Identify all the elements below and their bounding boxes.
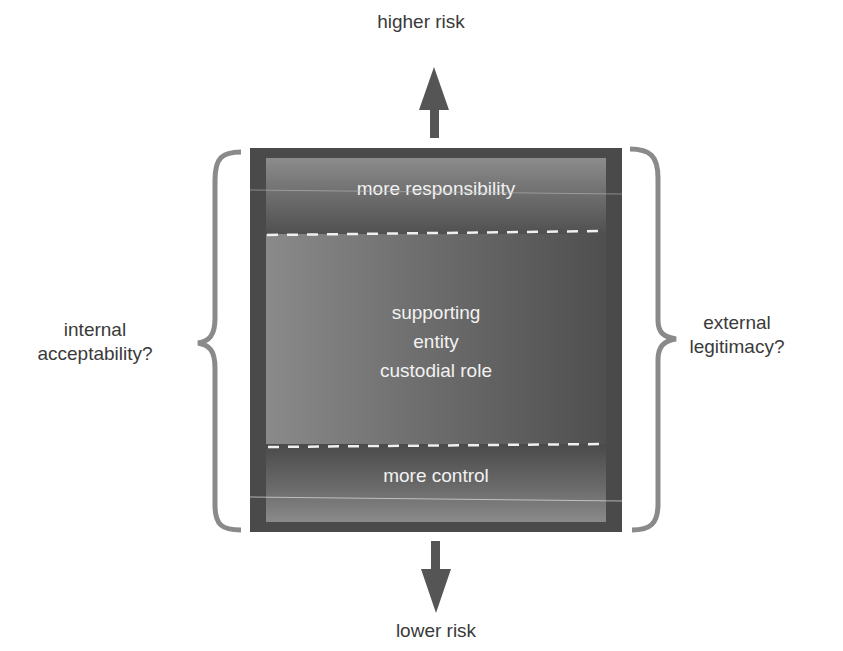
external-legitimacy-label: external legitimacy? xyxy=(652,311,822,359)
control-band: more control xyxy=(266,444,606,522)
left-brace-icon xyxy=(198,152,241,530)
down-arrow-icon xyxy=(421,541,451,613)
up-arrow-icon xyxy=(419,67,449,138)
control-text: more control xyxy=(266,465,606,487)
middle-line: supporting xyxy=(266,298,606,327)
lower-risk-label: lower risk xyxy=(336,619,536,643)
label-line: acceptability? xyxy=(0,342,190,366)
label-line: legitimacy? xyxy=(652,335,822,359)
responsibility-band: more responsibility xyxy=(266,158,606,234)
label-line: internal xyxy=(0,318,190,342)
entity-box: more responsibility supporting entity cu… xyxy=(266,158,606,522)
internal-acceptability-label: internal acceptability? xyxy=(0,318,190,366)
supporting-entity-text: supporting entity custodial role xyxy=(266,298,606,385)
middle-line: entity xyxy=(266,327,606,356)
middle-line: custodial role xyxy=(266,356,606,385)
label-line: external xyxy=(652,311,822,335)
higher-risk-label: higher risk xyxy=(321,10,521,34)
responsibility-text: more responsibility xyxy=(266,178,606,200)
